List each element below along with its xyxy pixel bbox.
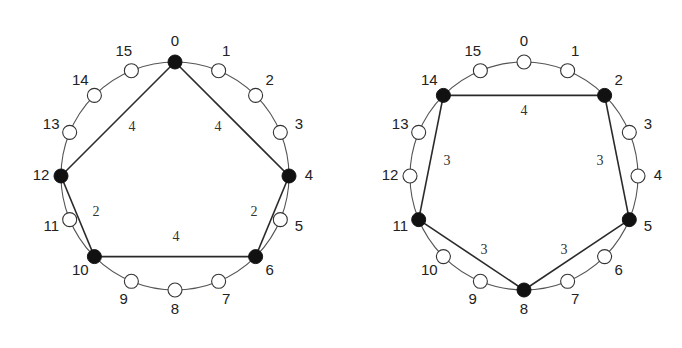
open-node-8 — [168, 283, 182, 297]
node-label-10: 10 — [421, 261, 438, 278]
node-label-10: 10 — [72, 261, 89, 278]
node-label-0: 0 — [520, 32, 528, 49]
edge-weight-label: 4 — [129, 119, 136, 134]
filled-node-2 — [598, 88, 612, 102]
ring-graph-canvas: 424240123456789101112131415 433330123456… — [0, 0, 682, 348]
node-label-12: 12 — [33, 166, 50, 183]
open-node-1 — [212, 64, 226, 78]
node-label-6: 6 — [266, 261, 274, 278]
edge-5-8 — [524, 220, 629, 290]
open-node-11 — [63, 213, 77, 227]
open-node-13 — [412, 125, 426, 139]
node-label-13: 13 — [43, 115, 60, 132]
open-node-14 — [87, 88, 101, 102]
edge-weight-label: 3 — [444, 153, 451, 168]
node-label-1: 1 — [571, 42, 579, 59]
open-node-15 — [124, 64, 138, 78]
ring-graph-figure: 424240123456789101112131415 433330123456… — [0, 0, 682, 348]
node-label-8: 8 — [171, 300, 179, 317]
node-label-0: 0 — [171, 32, 179, 49]
node-label-4: 4 — [654, 166, 662, 183]
node-label-11: 11 — [43, 217, 59, 234]
open-node-1 — [561, 64, 575, 78]
open-node-5 — [273, 213, 287, 227]
node-label-7: 7 — [571, 290, 579, 307]
filled-node-8 — [517, 283, 531, 297]
node-label-15: 15 — [464, 42, 481, 59]
open-node-0 — [517, 55, 531, 69]
edge-weight-label: 2 — [93, 204, 100, 219]
node-label-2: 2 — [266, 71, 274, 88]
filled-node-11 — [412, 213, 426, 227]
node-label-6: 6 — [615, 261, 623, 278]
node-label-9: 9 — [120, 290, 128, 307]
edge-weight-label: 3 — [481, 242, 488, 257]
edge-weight-label: 4 — [215, 119, 222, 134]
filled-node-4 — [282, 169, 296, 183]
open-node-15 — [473, 64, 487, 78]
node-label-1: 1 — [222, 42, 230, 59]
open-node-9 — [473, 274, 487, 288]
node-label-2: 2 — [615, 71, 623, 88]
edge-weight-label: 4 — [173, 229, 180, 244]
edge-weight-label: 2 — [251, 204, 258, 219]
edge-2-5 — [605, 95, 630, 219]
edge-weight-label: 4 — [521, 103, 528, 118]
node-label-5: 5 — [295, 217, 303, 234]
node-label-8: 8 — [520, 300, 528, 317]
open-node-7 — [212, 274, 226, 288]
node-label-3: 3 — [644, 115, 652, 132]
open-node-3 — [273, 125, 287, 139]
open-node-10 — [436, 250, 450, 264]
filled-node-5 — [622, 213, 636, 227]
node-label-4: 4 — [305, 166, 313, 183]
node-label-14: 14 — [72, 71, 89, 88]
open-node-3 — [622, 125, 636, 139]
node-label-12: 12 — [382, 166, 399, 183]
open-node-9 — [124, 274, 138, 288]
edge-8-11 — [419, 220, 524, 290]
diagram-right-pentagon-4-3-3-3-3: 433330123456789101112131415 — [382, 32, 663, 317]
node-label-9: 9 — [469, 290, 477, 307]
node-label-5: 5 — [644, 217, 652, 234]
diagram-left-pentagon-4-2-4-2-4: 424240123456789101112131415 — [33, 32, 314, 317]
open-node-12 — [403, 169, 417, 183]
node-label-7: 7 — [222, 290, 230, 307]
filled-node-0 — [168, 55, 182, 69]
node-label-15: 15 — [115, 42, 132, 59]
edge-11-14 — [419, 95, 444, 219]
open-node-7 — [561, 274, 575, 288]
node-label-13: 13 — [392, 115, 409, 132]
open-node-4 — [631, 169, 645, 183]
filled-node-6 — [249, 250, 263, 264]
open-node-2 — [249, 88, 263, 102]
node-label-3: 3 — [295, 115, 303, 132]
edge-weight-label: 3 — [597, 153, 604, 168]
filled-node-14 — [436, 88, 450, 102]
filled-node-12 — [54, 169, 68, 183]
open-node-6 — [598, 250, 612, 264]
filled-node-10 — [87, 250, 101, 264]
open-node-13 — [63, 125, 77, 139]
node-label-14: 14 — [421, 71, 438, 88]
node-label-11: 11 — [392, 217, 408, 234]
edge-weight-label: 3 — [561, 242, 568, 257]
